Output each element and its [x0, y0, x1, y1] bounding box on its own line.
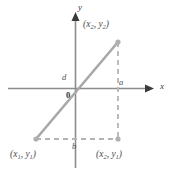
y-axis-label: y	[78, 3, 82, 12]
point-lower-left-dot	[33, 136, 38, 141]
coordinate-diagram-figure: y x 0 d a b (x2, y2) (x1, y1) (x2, y1)	[0, 0, 172, 175]
segment-length-a-label: a	[119, 78, 123, 87]
point-lower-right-dot	[115, 136, 120, 141]
point-upper-right-label: (x2, y2)	[83, 20, 109, 31]
origin-label: 0	[66, 91, 70, 100]
y-axis-arrowhead-icon	[72, 12, 80, 21]
comma: ,	[94, 19, 96, 29]
paren-close: )	[106, 19, 109, 29]
x-axis-arrowhead-icon	[145, 85, 154, 93]
segment-length-d-label: d	[62, 73, 66, 82]
paren-close: )	[33, 149, 36, 159]
point-lower-left-label: (x1, y1)	[10, 150, 36, 161]
hypotenuse-segment	[36, 42, 118, 139]
x-axis-label: x	[160, 82, 164, 91]
segment-length-b-label: b	[72, 142, 76, 151]
point-lower-right-label: (x2, y1)	[96, 150, 122, 161]
point-upper-right-dot	[115, 39, 120, 44]
comma: ,	[21, 149, 23, 159]
paren-close: )	[119, 149, 122, 159]
comma: ,	[107, 149, 109, 159]
